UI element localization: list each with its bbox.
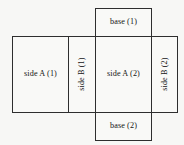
box-net-diagram: base (1) side A (1) side B (1) side A (2… xyxy=(0,0,184,145)
net-face-base-1: base (1) xyxy=(95,8,152,37)
net-face-side-a-1-label: side A (1) xyxy=(24,70,57,78)
net-face-side-a-2: side A (2) xyxy=(95,36,152,113)
net-face-side-b-1: side B (1) xyxy=(68,36,96,113)
net-face-side-b-1-label: side B (1) xyxy=(78,58,86,91)
net-face-side-a-2-label: side A (2) xyxy=(107,70,140,78)
net-face-side-b-2: side B (2) xyxy=(151,36,178,113)
net-face-side-b-2-label: side B (2) xyxy=(160,58,168,91)
net-face-base-1-label: base (1) xyxy=(110,18,137,26)
net-face-base-2-label: base (2) xyxy=(110,122,137,130)
net-face-side-a-1: side A (1) xyxy=(12,36,69,113)
net-face-base-2: base (2) xyxy=(95,112,152,141)
